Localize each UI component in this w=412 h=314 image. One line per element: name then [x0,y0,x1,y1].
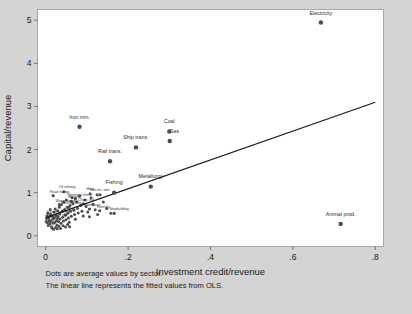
data-point [94,208,97,211]
data-point [113,212,116,215]
data-point [319,20,323,24]
y-axis-title: Capital/revenue [2,95,13,162]
data-point [48,223,51,226]
x-tick-label: .8 [372,252,379,262]
data-point-label: Non-fer. met. [90,188,110,192]
data-point [149,184,153,188]
x-tick-label: .4 [207,252,214,262]
data-point [102,201,105,204]
data-point [109,212,112,215]
data-point [68,225,71,228]
data-point [70,215,73,218]
note-line-2: The linear line represents the fitted va… [46,281,224,290]
data-point [338,222,342,226]
data-point [96,193,99,196]
data-point-label: Shipbuilding [110,207,129,211]
data-point [88,215,91,218]
y-tick-label: 4 [27,58,32,68]
data-point [99,193,102,196]
data-point [98,209,101,212]
y-tick-label: 1 [27,188,32,198]
data-point [77,211,80,214]
data-point [108,159,112,163]
data-point [112,190,116,194]
data-point-label: Fishing [106,179,123,185]
x-tick-label: .6 [289,252,296,262]
data-point [45,220,48,223]
data-point [82,214,85,217]
data-point [73,213,76,216]
data-point-label: Iron min. [69,114,90,120]
figure-container: 0123450.2.4.6.8Investment credit/revenue… [0,0,412,314]
data-point [96,213,99,216]
data-point [168,139,172,143]
data-point-label: Electricity [310,10,333,16]
data-point [77,125,81,129]
y-tick-label: 2 [27,145,32,155]
note-line-1: Dots are average values by sector. [46,269,163,278]
data-point-label: Metallurgy [139,173,164,179]
data-point-label: Rail trans. [98,148,122,154]
data-point [64,218,67,221]
data-point [52,194,55,197]
data-point-label: Forestry [97,205,110,209]
data-point [56,227,59,230]
data-point [74,218,77,221]
data-point-label: Gas [169,128,179,134]
data-point-label: Ship trans. [123,134,148,140]
x-axis-title: Investment credit/revenue [156,266,265,277]
data-point-label: Coal [164,118,175,124]
y-tick-label: 3 [27,101,32,111]
x-tick-label: .2 [125,252,132,262]
y-tick-label: 5 [27,15,32,25]
data-point [56,217,59,220]
data-point [86,211,89,214]
data-point-label: Machine bldg. [60,201,82,205]
data-point [59,227,62,230]
data-point-label: Light ind. [53,213,67,217]
data-point [47,219,50,222]
data-point [88,207,91,210]
data-point [59,222,62,225]
data-point-label: Animal prod. [326,211,356,217]
data-point [80,210,83,213]
x-tick-label: 0 [43,252,48,262]
data-point [59,217,62,220]
data-point [67,217,70,220]
data-point [57,220,60,223]
scatter-chart: 0123450.2.4.6.8Investment credit/revenue… [0,0,412,314]
y-tick-label: 0 [27,231,32,241]
data-point [64,226,67,229]
data-point [134,145,138,149]
